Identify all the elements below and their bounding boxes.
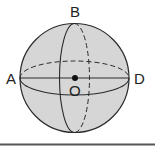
label-d: D [134,70,145,87]
label-b: B [70,3,80,20]
label-a: A [6,70,16,87]
label-o: O [69,82,81,99]
center-point [72,75,78,81]
sphere-diagram: B A D O [0,0,155,148]
